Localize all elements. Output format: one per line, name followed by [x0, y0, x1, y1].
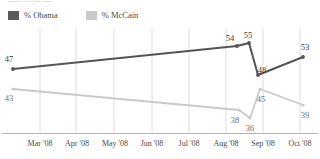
chart-svg: 47 54 55 48 53 43 38 36 45 39	[0, 28, 320, 135]
x-tick-aug: Aug '08	[213, 139, 238, 148]
data-label-obama-1: 54	[226, 33, 235, 43]
data-label-obama-3: 48	[258, 65, 267, 75]
data-label-mccain-4: 39	[301, 110, 310, 120]
x-tick-mar: Mar '08	[28, 139, 53, 148]
gridlines	[40, 28, 300, 133]
x-tick-jul: Jul '08	[179, 139, 200, 148]
poll-trend-chart: ........ .. ... .... ..... % Obama % McC…	[0, 0, 320, 159]
chart-title-clipped: ........ .. ... .... .....	[8, 0, 158, 4]
x-tick-may: May '08	[102, 139, 128, 148]
data-label-mccain-0: 43	[5, 93, 14, 103]
data-labels-mccain: 43 38 36 45 39	[5, 93, 310, 133]
data-label-obama-2: 55	[244, 30, 253, 40]
data-labels-obama: 47 54 55 48 53	[5, 30, 310, 75]
legend-label-obama: % Obama	[24, 10, 58, 20]
data-label-mccain-3: 45	[257, 94, 266, 104]
legend-label-mccain: % McCain	[102, 10, 139, 20]
legend-item-mccain: % McCain	[86, 10, 139, 20]
data-label-obama-0: 47	[5, 54, 14, 64]
plot-area: 47 54 55 48 53 43 38 36 45 39	[0, 28, 320, 135]
x-axis-labels: Mar '08 Apr '08 May '08 Jun '08 Jul '08 …	[0, 139, 320, 153]
legend-swatch-obama-icon	[8, 11, 19, 20]
chart-legend: % Obama % McCain	[8, 9, 138, 21]
data-label-mccain-1: 38	[231, 115, 240, 125]
x-tick-sep: Sep '08	[251, 139, 274, 148]
x-tick-apr: Apr '08	[65, 139, 89, 148]
x-tick-oct: Oct '08	[289, 139, 312, 148]
x-tick-jun: Jun '08	[141, 139, 164, 148]
legend-swatch-mccain-icon	[86, 11, 97, 20]
legend-item-obama: % Obama	[8, 10, 58, 20]
data-label-obama-4: 53	[301, 42, 310, 52]
data-label-mccain-2: 36	[246, 123, 255, 133]
